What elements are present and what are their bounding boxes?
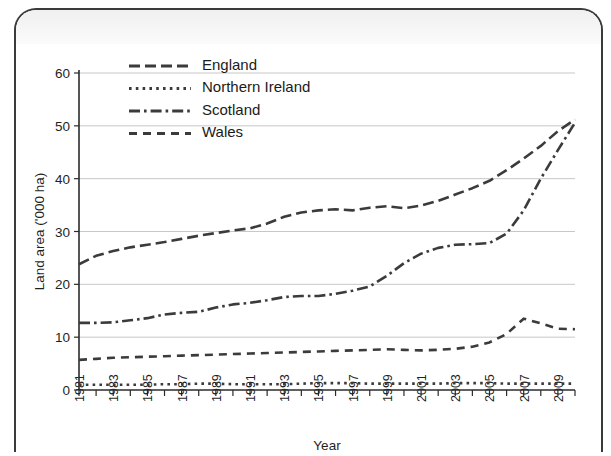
x-tick-label: 1987 xyxy=(176,374,190,402)
y-tick-label: 60 xyxy=(55,66,70,81)
y-tick-label: 30 xyxy=(55,225,70,240)
series-line-england xyxy=(79,119,575,264)
axis-lines xyxy=(79,70,575,390)
x-tick-label: 1993 xyxy=(278,374,292,402)
y-axis-title: Land area ('000 ha) xyxy=(32,173,47,290)
x-tick-label: 1999 xyxy=(381,374,395,402)
chart-container: 0102030405060 19811983198519871989199119… xyxy=(0,0,611,456)
y-tick-label: 0 xyxy=(62,383,70,398)
chart-legend: EnglandNorthern IrelandScotlandWales xyxy=(129,56,310,141)
x-tick-label: 1991 xyxy=(244,374,258,402)
legend-label-england: England xyxy=(202,56,257,73)
x-tick-label: 1989 xyxy=(210,374,224,402)
x-tick-label: 2007 xyxy=(518,374,532,402)
x-tick-label: 2005 xyxy=(483,374,497,402)
legend-label-northern-ireland: Northern Ireland xyxy=(202,78,310,95)
x-tick-label: 1997 xyxy=(347,374,361,402)
x-tick-label: 1995 xyxy=(312,374,326,402)
y-axis-ticks: 0102030405060 xyxy=(55,66,79,398)
x-tick-label: 1981 xyxy=(73,374,87,402)
line-chart: 0102030405060 19811983198519871989199119… xyxy=(0,0,611,456)
x-tick-label: 1983 xyxy=(107,374,121,402)
legend-label-scotland: Scotland xyxy=(202,101,260,118)
x-axis-ticks: 1981198319851987198919911993199519971999… xyxy=(73,374,575,402)
x-tick-label: 1985 xyxy=(141,374,155,402)
legend-label-wales: Wales xyxy=(202,123,243,140)
y-tick-label: 40 xyxy=(55,172,70,187)
x-tick-label: 2001 xyxy=(415,374,429,402)
y-tick-label: 20 xyxy=(55,277,70,292)
series-layer xyxy=(79,119,575,384)
series-line-wales xyxy=(79,319,575,360)
y-tick-label: 50 xyxy=(55,119,70,134)
x-tick-label: 2009 xyxy=(552,374,566,402)
series-line-scotland xyxy=(79,123,575,323)
x-axis-title: Year xyxy=(313,438,341,453)
x-tick-label: 2003 xyxy=(449,374,463,402)
y-tick-label: 10 xyxy=(55,330,70,345)
gridlines xyxy=(79,73,575,337)
